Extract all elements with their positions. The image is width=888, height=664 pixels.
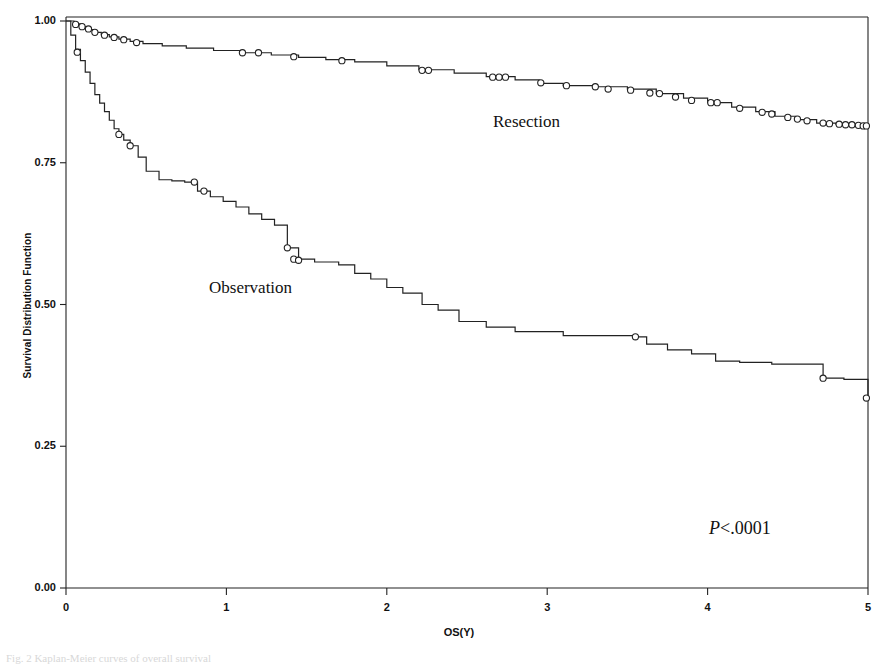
y-tick-label: 1.00 xyxy=(14,15,56,26)
censor-marker xyxy=(836,121,842,127)
censor-marker xyxy=(255,50,261,56)
censor-marker xyxy=(127,143,133,149)
x-axis-title-text: OS(Y) xyxy=(444,626,475,638)
y-tick-label: 0.50 xyxy=(14,299,56,310)
survival-curve-observation xyxy=(66,21,868,398)
censor-marker xyxy=(714,100,720,106)
resection-curve-label: Resection xyxy=(493,112,560,132)
censor-marker xyxy=(563,83,569,89)
censor-marker xyxy=(632,334,638,340)
censor-marker xyxy=(490,74,496,80)
y-tick-label: 0.00 xyxy=(14,582,56,593)
figure-caption: Fig. 2 Kaplan-Meier curves of overall su… xyxy=(6,652,211,664)
x-tick-label: 4 xyxy=(693,602,723,613)
censor-marker xyxy=(737,105,743,111)
censor-marker xyxy=(419,67,425,73)
censor-marker xyxy=(101,32,107,38)
x-tick-label: 1 xyxy=(211,602,241,613)
plot-area xyxy=(0,0,888,664)
censor-marker xyxy=(502,74,508,80)
censor-marker xyxy=(73,21,79,27)
survival-curves xyxy=(66,21,868,398)
pvalue-p-symbol: P xyxy=(709,518,720,538)
censor-marker xyxy=(863,123,869,129)
censor-marker xyxy=(656,90,662,96)
observation-curve-label: Observation xyxy=(209,278,292,298)
censor-marker xyxy=(121,37,127,43)
censor-marker xyxy=(538,80,544,86)
censor-marker xyxy=(769,111,775,117)
censor-marker xyxy=(284,245,290,251)
censor-marker xyxy=(79,24,85,30)
censor-marker xyxy=(804,118,810,124)
censor-marker xyxy=(425,67,431,73)
censor-marker xyxy=(74,49,80,55)
censor-marker xyxy=(688,97,694,103)
censor-marker xyxy=(133,39,139,45)
censor-markers xyxy=(73,21,870,401)
censor-marker xyxy=(785,114,791,120)
censor-marker xyxy=(201,188,207,194)
survival-curve-resection xyxy=(66,21,868,126)
pvalue-annotation: P<.0001 xyxy=(709,518,771,539)
censor-marker xyxy=(291,54,297,60)
x-tick-label: 3 xyxy=(532,602,562,613)
censor-marker xyxy=(842,122,848,128)
survival-curve-figure: Survival Distribution Function 0.000.250… xyxy=(0,0,888,664)
y-tick-label: 0.75 xyxy=(14,157,56,168)
x-tick-label: 5 xyxy=(853,602,883,613)
y-tick-label: 0.25 xyxy=(14,440,56,451)
censor-marker xyxy=(592,84,598,90)
censor-marker xyxy=(496,74,502,80)
censor-marker xyxy=(239,50,245,56)
censor-marker xyxy=(605,86,611,92)
censor-marker xyxy=(759,109,765,115)
plot-frame xyxy=(66,17,868,588)
censor-marker xyxy=(820,375,826,381)
censor-marker xyxy=(672,94,678,100)
censor-marker xyxy=(820,120,826,126)
censor-marker xyxy=(708,100,714,106)
pvalue-value: <.0001 xyxy=(720,518,771,538)
x-tick-label: 2 xyxy=(372,602,402,613)
censor-marker xyxy=(295,257,301,263)
x-tick-label: 0 xyxy=(51,602,81,613)
censor-marker xyxy=(647,90,653,96)
censor-marker xyxy=(92,29,98,35)
censor-marker xyxy=(191,179,197,185)
censor-marker xyxy=(111,34,117,40)
censor-marker xyxy=(85,26,91,32)
censor-marker xyxy=(116,131,122,137)
x-axis-title: OS(Y) xyxy=(0,626,888,638)
censor-marker xyxy=(849,122,855,128)
censor-marker xyxy=(339,58,345,64)
censor-marker xyxy=(826,121,832,127)
censor-marker xyxy=(863,395,869,401)
censor-marker xyxy=(628,87,634,93)
censor-marker xyxy=(794,116,800,122)
